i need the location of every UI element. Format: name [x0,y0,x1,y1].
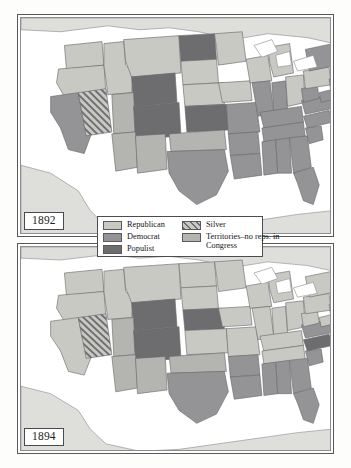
legend-column-right: SilverTerritories–no reps. in Congress [182,220,280,244]
legend-item-territories: Territories–no reps. in Congress [182,232,280,243]
state-ne [183,83,224,107]
legend-item-populist: Populist [103,244,165,255]
map-legend: RepublicanDemocratPopulist SilverTerrito… [97,216,263,257]
state-nm [136,357,168,394]
map-panel-1894: 1894 [17,243,334,454]
state-mo [226,102,260,133]
state-wa [64,42,103,69]
state-mn [215,32,247,65]
state-wi [246,55,272,82]
state-al [276,138,292,173]
state-ms [262,362,278,395]
state-sd [181,286,219,310]
state-al [276,360,292,393]
legend-label-silver: Silver [206,220,226,229]
legend-column-left: RepublicanDemocratPopulist [103,220,165,256]
map-panel-1894-inner [20,246,331,451]
state-nd [179,34,217,61]
legend-swatch-silver [182,221,201,230]
legend-swatch-republican [103,221,122,230]
state-pa [303,67,331,89]
state-wy [132,299,177,331]
state-ga [290,358,312,393]
legend-swatch-democrat [103,233,122,242]
state-ok [169,353,226,373]
state-az [112,132,138,171]
state-ga [290,136,312,173]
state-ut [112,93,136,134]
state-mo [226,327,260,357]
map-panel-1892-inner [20,17,331,234]
legend-swatch-populist [103,245,122,254]
legend-label-territories: Territories–no reps. in Congress [206,232,280,250]
state-ut [112,318,136,357]
state-la [230,375,262,399]
state-wi [246,282,272,308]
state-in [272,81,288,112]
legend-label-republican: Republican [127,220,165,229]
legend-label-democrat: Democrat [127,232,160,241]
legend-item-democrat: Democrat [103,232,165,243]
state-ne [183,308,224,330]
us-map-1892 [21,18,331,234]
state-ms [262,140,278,175]
state-ia [218,306,252,326]
figure-container: 1892 1894 RepublicanDemocratPopulist Sil… [0,0,351,468]
legend-swatch-territories [182,233,201,242]
state-nd [179,262,217,288]
state-ar [228,132,260,156]
year-label-1892: 1892 [24,212,64,230]
state-ia [218,81,252,103]
us-map-1894 [21,247,331,451]
state-mt [124,36,181,77]
state-ks [185,329,228,355]
state-mn [215,260,247,292]
state-ar [228,355,260,377]
state-ok [169,130,226,152]
map-panel-1892: 1892 [17,14,334,237]
state-la [230,154,262,180]
year-label-1894: 1894 [24,428,64,446]
state-mt [124,264,181,303]
state-in [272,306,288,336]
state-nm [136,134,168,173]
state-sd [181,59,219,85]
state-wa [64,269,103,295]
state-pa [303,293,331,313]
legend-item-republican: Republican [103,220,165,231]
state-wy [132,73,177,106]
state-ks [185,104,228,131]
legend-item-silver: Silver [182,220,280,231]
state-az [112,355,138,392]
legend-label-populist: Populist [127,244,154,253]
